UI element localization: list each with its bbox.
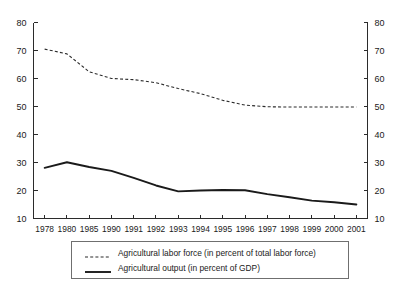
x-tick-label: 2000 — [325, 224, 344, 234]
x-tick-label: 1978 — [35, 224, 54, 234]
y-tick-label-right: 60 — [375, 74, 385, 84]
y-tick-label-right: 20 — [375, 186, 385, 196]
chart-legend: Agricultural labor force (in percent of … — [71, 241, 349, 279]
y-axis-left-labels: 1020304050607080 — [16, 18, 26, 224]
y-tick-label-left: 50 — [16, 102, 26, 112]
y-tick-label-right: 10 — [375, 214, 385, 224]
y-axis-right-labels: 1020304050607080 — [375, 18, 385, 224]
x-tick-label: 2001 — [347, 224, 366, 234]
legend-item-output: Agricultural output (in percent of GDP) — [72, 260, 348, 275]
x-tick-label: 1980 — [58, 224, 77, 234]
x-tick-label: 1985 — [80, 224, 99, 234]
y-tick-label-left: 70 — [16, 46, 26, 56]
x-tick-label: 1993 — [169, 224, 188, 234]
x-tick-label: 1994 — [191, 224, 210, 234]
x-tick-label: 1997 — [258, 224, 277, 234]
y-tick-label-right: 40 — [375, 130, 385, 140]
y-tick-label-left: 30 — [16, 158, 26, 168]
x-tick-label: 1990 — [102, 224, 121, 234]
chart-figure: 1020304050607080 1020304050607080 197819… — [0, 0, 419, 290]
y-tick-label-left: 20 — [16, 186, 26, 196]
legend-item-labor-force: Agricultural labor force (in percent of … — [72, 245, 348, 260]
x-tick-label: 1998 — [280, 224, 299, 234]
y-tick-label-left: 80 — [16, 18, 26, 28]
x-tick-label: 1991 — [124, 224, 143, 234]
legend-label-output: Agricultural output (in percent of GDP) — [118, 263, 260, 273]
chart-series — [45, 49, 357, 204]
y-tick-label-left: 40 — [16, 130, 26, 140]
y-tick-label-right: 70 — [375, 46, 385, 56]
x-tick-label: 1996 — [236, 224, 255, 234]
series-line-output — [45, 162, 357, 204]
legend-swatch-solid-icon — [85, 263, 111, 273]
y-tick-label-left: 10 — [16, 214, 26, 224]
x-tick-label: 1999 — [303, 224, 322, 234]
x-tick-label: 1992 — [147, 224, 166, 234]
legend-label-labor-force: Agricultural labor force (in percent of … — [118, 248, 316, 258]
legend-swatch-dashed-icon — [85, 248, 111, 258]
y-tick-label-right: 50 — [375, 102, 385, 112]
chart-axes — [34, 23, 368, 219]
y-tick-label-right: 80 — [375, 18, 385, 28]
y-tick-label-left: 60 — [16, 74, 26, 84]
x-tick-label: 1995 — [213, 224, 232, 234]
y-tick-label-right: 30 — [375, 158, 385, 168]
series-line-labor-force — [45, 49, 357, 107]
x-axis-labels: 1978198019851990199119921993199419951996… — [35, 224, 366, 234]
